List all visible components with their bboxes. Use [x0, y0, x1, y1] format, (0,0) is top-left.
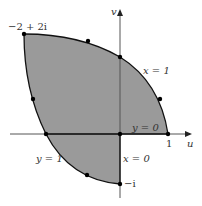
minus-i-label: −i [124, 178, 136, 189]
u-axis-label: u [187, 138, 193, 149]
label-y-eq-0: y = 0 [131, 122, 159, 133]
label-y-eq-1: y = 1 [35, 153, 63, 164]
v-axis-arrow-icon [117, 9, 123, 16]
label-x-eq-1: x = 1 [143, 65, 170, 76]
label-x-eq-0: x = 0 [123, 153, 150, 164]
u-axis-arrow-icon [185, 131, 192, 137]
tick-one-label: 1 [166, 138, 172, 149]
corner-label: −2 + 2i [8, 21, 47, 32]
complex-map-diagram: −2 + 2i v u 1 −i x = 1 y = 0 y = 1 x = 0 [0, 0, 202, 206]
v-axis-label: v [111, 6, 117, 17]
